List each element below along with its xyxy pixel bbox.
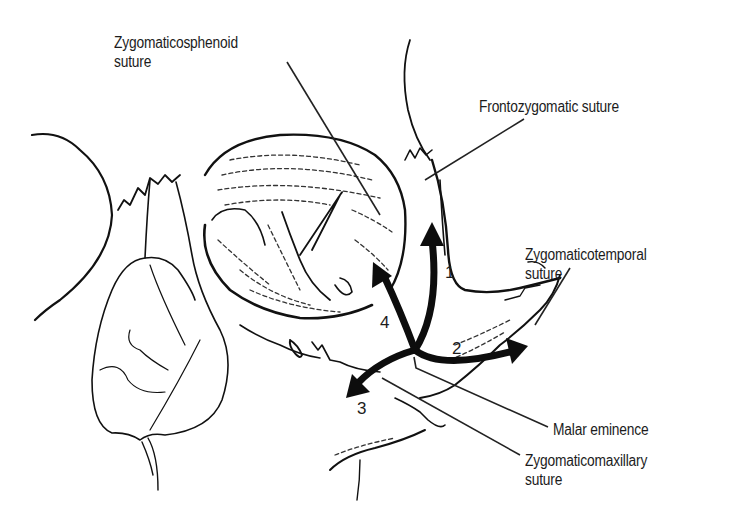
left-orbit-outline (32, 134, 112, 320)
orbit-globe (204, 135, 405, 319)
label-zygomaticomaxillary-suture: Zygomaticomaxillary suture (525, 451, 647, 489)
leader-zygomaticosphenoid (287, 62, 380, 215)
vector-arrows (346, 222, 528, 398)
label-zygomaticotemporal-suture: Zygomaticotemporal suture (525, 245, 647, 283)
zygoma-diagram: Zygomaticosphenoid suture Frontozygomati… (0, 0, 730, 523)
label-zygomaticosphenoid-suture: Zygomaticosphenoid suture (114, 33, 238, 71)
leader-frontozygomatic (425, 119, 524, 180)
label-line: Frontozygomatic suture (479, 97, 619, 116)
label-line: Zygomaticomaxillary (525, 451, 647, 470)
arrow-1 (415, 240, 434, 350)
zygoma-outline (404, 40, 560, 398)
arrow-2-head (506, 338, 528, 364)
arrow-2 (415, 350, 510, 361)
leader-malar (414, 357, 548, 427)
arrow-3 (358, 350, 415, 383)
label-line: Malar eminence (553, 420, 648, 439)
arrow-number-1: 1 (445, 263, 454, 283)
label-line: suture (114, 52, 238, 71)
label-line: suture (525, 264, 647, 283)
arrow-number-4: 4 (380, 313, 389, 333)
label-line: Zygomaticotemporal (525, 245, 647, 264)
arrow-1-head (420, 222, 444, 246)
arrow-number-3: 3 (357, 399, 366, 419)
label-frontozygomatic-suture: Frontozygomatic suture (479, 97, 619, 116)
label-line: suture (525, 470, 647, 489)
label-malar-eminence: Malar eminence (553, 420, 648, 439)
leader-zygomaticomaxillary (382, 378, 520, 455)
label-line: Zygomaticosphenoid (114, 33, 238, 52)
arrow-number-2: 2 (452, 339, 461, 359)
